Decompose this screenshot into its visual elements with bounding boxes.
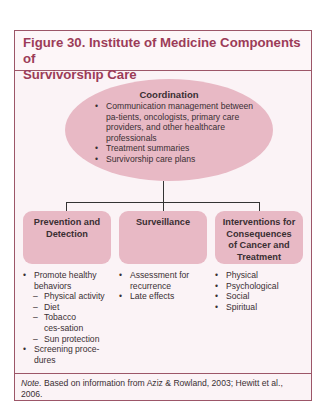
list-item: Assessment for recurrence: [117, 270, 197, 291]
list-item: Tobacco ces-sation: [21, 312, 92, 333]
interventions-list: Physical Psychological Social Spiritual: [213, 270, 303, 312]
figure-frame: Figure 30. Institute of Medicine Compone…: [14, 30, 312, 401]
prevention-detection-box: Prevention and Detection: [23, 211, 111, 264]
list-item: Promote healthy behaviors: [21, 270, 109, 291]
prevention-detection-list: Promote healthy behaviors Physical activ…: [21, 270, 109, 365]
connector-middle: [163, 202, 164, 211]
note-label: Note.: [21, 378, 42, 388]
interventions-box: Interventions for Consequences of Cancer…: [215, 211, 303, 264]
list-item: Physical activity: [21, 291, 109, 302]
list-item: Survivorship care plans: [94, 154, 254, 165]
list-item: Diet: [21, 302, 109, 313]
list-item: Psychological: [213, 281, 303, 292]
figure-title: Figure 30. Institute of Medicine Compone…: [15, 31, 311, 71]
surveillance-box: Surveillance: [119, 211, 207, 264]
list-item: Sun protection: [21, 334, 109, 345]
list-item: Screening proce-dures: [21, 344, 100, 365]
list-item: Spiritual: [213, 302, 303, 313]
coordination-title: Coordination: [65, 89, 273, 100]
list-item: Late effects: [117, 291, 197, 302]
connector-right: [259, 202, 260, 211]
list-item: Social: [213, 291, 303, 302]
figure-note: Note. Based on information from Aziz & R…: [15, 373, 311, 404]
list-item: Treatment summaries: [94, 143, 254, 154]
connector-vertical-main: [163, 181, 164, 203]
connector-left: [66, 202, 67, 211]
figure-title-line-1: Figure 30. Institute of Medicine Compone…: [23, 35, 303, 67]
coordination-list: Communication management between pa-tien…: [94, 101, 254, 165]
surveillance-list: Assessment for recurrence Late effects: [117, 270, 197, 302]
list-item: Communication management between pa-tien…: [94, 101, 254, 143]
note-text: Based on information from Aziz & Rowland…: [21, 378, 283, 399]
list-item: Physical: [213, 270, 303, 281]
